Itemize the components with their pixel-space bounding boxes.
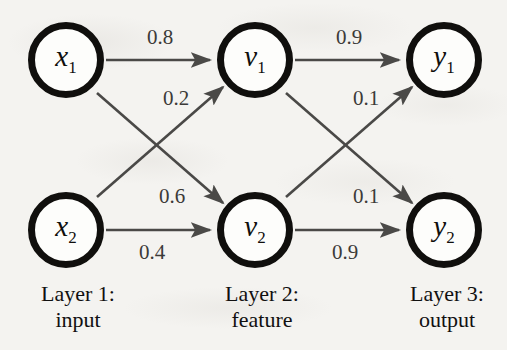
node-x1[interactable]: x1 (28, 22, 104, 98)
node-v2-label: v2 (244, 212, 265, 246)
caption-layer-3-line2: output (410, 307, 484, 333)
edge-x2-v1 (97, 87, 223, 197)
weight-label-v2-y2: 0.9 (332, 242, 358, 263)
edge-v2-y1 (286, 87, 412, 197)
node-v1[interactable]: v1 (217, 22, 293, 98)
node-y2-label: y2 (433, 212, 454, 246)
weight-label-x1-v1: 0.8 (147, 27, 173, 48)
node-y1-label: y1 (433, 42, 454, 76)
node-x2[interactable]: x2 (28, 192, 104, 268)
caption-layer-1-line2: input (41, 307, 115, 333)
weight-label-x2-v1: 0.2 (163, 88, 189, 109)
node-v1-label: v1 (244, 42, 265, 76)
caption-layer-3: Layer 3: output (410, 281, 484, 333)
caption-layer-1: Layer 1: input (41, 281, 115, 333)
neural-network-diagram: x1 x2 v1 v2 y1 y2 0.8 0.6 0.2 0.4 0.9 0.… (0, 0, 507, 350)
caption-layer-2: Layer 2: feature (225, 281, 299, 333)
node-x2-label: x2 (55, 212, 76, 246)
weight-label-v1-y1: 0.9 (336, 27, 362, 48)
edge-v1-y2 (286, 93, 412, 203)
caption-layer-3-line1: Layer 3: (410, 281, 484, 306)
node-v2[interactable]: v2 (217, 192, 293, 268)
caption-layer-1-line1: Layer 1: (41, 281, 115, 306)
weight-label-v1-y2: 0.1 (353, 186, 379, 207)
weight-label-x2-v2: 0.4 (139, 242, 165, 263)
caption-layer-2-line2: feature (225, 307, 299, 333)
node-y2[interactable]: y2 (406, 192, 482, 268)
caption-layer-2-line1: Layer 2: (225, 281, 299, 306)
node-y1[interactable]: y1 (406, 22, 482, 98)
node-x1-label: x1 (55, 42, 76, 76)
weight-label-v2-y1: 0.1 (353, 88, 379, 109)
weight-label-x1-v2: 0.6 (159, 186, 185, 207)
